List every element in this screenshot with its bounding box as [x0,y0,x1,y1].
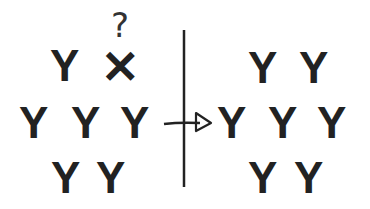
right-row1-y1: Y [248,46,277,90]
diagram-canvas: Y ✕ ? Y Y Y Y Y Y Y Y Y Y Y Y [0,0,370,209]
right-row2-y1: Y [217,101,246,145]
right-row1-y2: Y [299,46,328,90]
right-row2-y3: Y [317,101,346,145]
arrow-shaft [164,123,200,124]
right-row2-y2: Y [268,101,297,145]
right-row3-y2: Y [294,156,323,200]
right-row3-y1: Y [248,156,277,200]
